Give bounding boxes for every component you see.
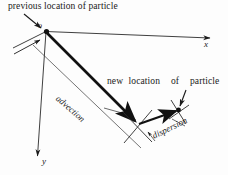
origin-label: o [38, 22, 42, 30]
x-axis [46, 32, 210, 39]
previous-location-label: previous location of particle [8, 2, 118, 12]
y-axis-label: y [42, 157, 46, 166]
new-location-point [176, 108, 181, 113]
advection-guide-line [33, 45, 141, 148]
origin-ray [13, 32, 46, 55]
new-location-label: new location of particle [107, 77, 219, 87]
x-axis-label: x [204, 40, 208, 49]
new-location-pointer [180, 90, 186, 106]
advection-dispersion-diagram: previous location of particle new locati… [0, 0, 228, 175]
origin-point [44, 29, 49, 34]
diagram-vectors [0, 0, 228, 175]
